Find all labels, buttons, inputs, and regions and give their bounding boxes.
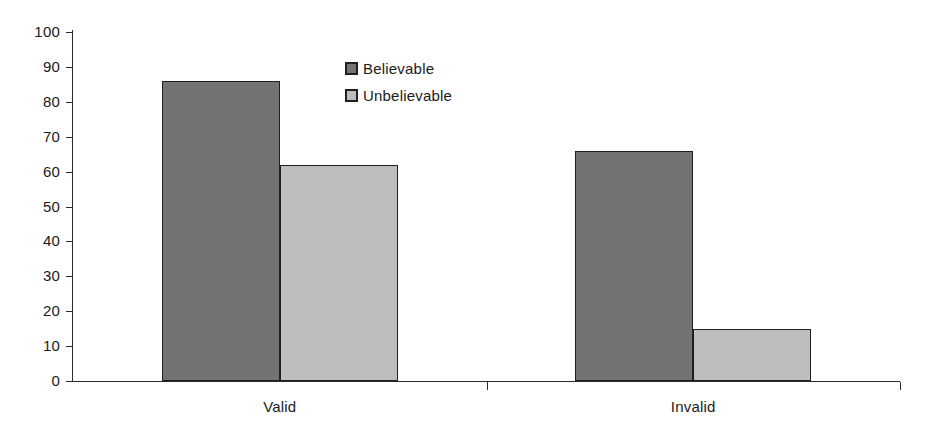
- bar-valid-unbelievable: [280, 165, 398, 381]
- y-axis-tick-label: 90: [0, 59, 60, 74]
- y-axis-tick-label: 30: [0, 268, 60, 283]
- y-axis-tick-label: 60: [0, 164, 60, 179]
- plot-area: [73, 32, 900, 381]
- y-axis-tick: [66, 32, 73, 33]
- bar-invalid-unbelievable: [693, 329, 811, 381]
- y-axis-tick-label: 80: [0, 94, 60, 109]
- y-axis-tick-label: 0: [0, 373, 60, 388]
- y-axis-tick: [66, 241, 73, 242]
- y-axis-tick: [66, 311, 73, 312]
- x-axis-label-valid: Valid: [263, 398, 296, 415]
- x-axis-tick: [487, 382, 488, 390]
- legend-label: Believable: [363, 61, 434, 76]
- y-axis-tick: [66, 207, 73, 208]
- x-axis-label-invalid: Invalid: [671, 398, 716, 415]
- y-axis-tick: [66, 137, 73, 138]
- x-axis-tick: [900, 382, 901, 390]
- legend-item-unbelievable: Unbelievable: [345, 83, 452, 107]
- y-axis-tick: [66, 276, 73, 277]
- legend-swatch-icon: [345, 89, 358, 102]
- y-axis-tick: [66, 102, 73, 103]
- y-axis-tick: [66, 67, 73, 68]
- y-axis-tick: [66, 381, 73, 382]
- bar-invalid-believable: [575, 151, 693, 381]
- bar-valid-believable: [162, 81, 280, 381]
- y-axis-tick-label: 100: [0, 24, 60, 39]
- bar-chart: 0102030405060708090100 ValidInvalid Beli…: [0, 0, 932, 438]
- y-axis-tick-label: 50: [0, 199, 60, 214]
- chart-legend: BelievableUnbelievable: [345, 56, 452, 110]
- y-axis-tick: [66, 346, 73, 347]
- y-axis-tick-label: 20: [0, 303, 60, 318]
- y-axis-tick-label: 10: [0, 338, 60, 353]
- legend-swatch-icon: [345, 62, 358, 75]
- legend-item-believable: Believable: [345, 56, 452, 80]
- y-axis-tick: [66, 172, 73, 173]
- y-axis-tick-label: 70: [0, 129, 60, 144]
- legend-label: Unbelievable: [363, 88, 452, 103]
- y-axis-tick-label: 40: [0, 233, 60, 248]
